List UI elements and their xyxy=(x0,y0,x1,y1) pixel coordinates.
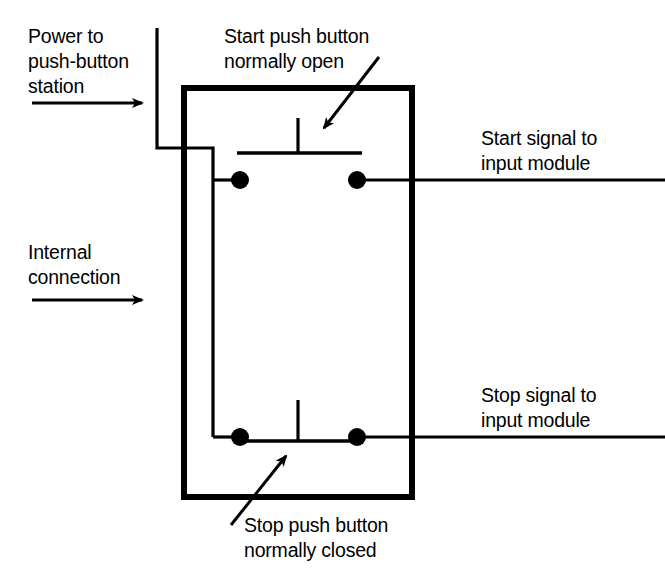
start-push-button-symbol xyxy=(231,118,366,189)
label-power-to-station: Power to push-button station xyxy=(28,24,129,99)
label-internal-connection: Internal connection xyxy=(28,240,120,290)
label-start-signal-to-input-module: Start signal to input module xyxy=(481,126,597,176)
start-terminal-dot-right xyxy=(348,171,366,189)
wiring-diagram: Power to push-button station Internal co… xyxy=(0,0,665,587)
label-start-push-button: Start push button normally open xyxy=(224,24,369,74)
start-terminal-dot-left xyxy=(231,171,249,189)
label-stop-signal-to-input-module: Stop signal to input module xyxy=(481,383,596,433)
stop-push-button-symbol xyxy=(231,400,366,446)
label-stop-push-button: Stop push button normally closed xyxy=(244,513,388,563)
stop-terminal-dot-right xyxy=(348,428,366,446)
stop-terminal-dot-left xyxy=(231,428,249,446)
